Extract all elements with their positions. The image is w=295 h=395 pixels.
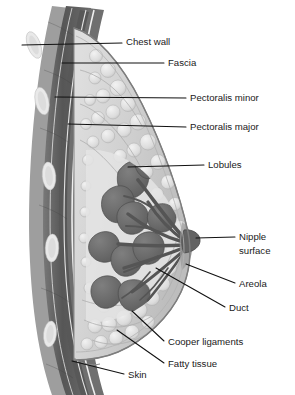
breast-anatomy-diagram: Chest wall Fascia Pectoralis minor Pecto… bbox=[0, 0, 295, 395]
leader-nipple-surface bbox=[196, 237, 235, 238]
label-fatty-tissue: Fatty tissue bbox=[168, 358, 217, 369]
label-chest-wall: Chest wall bbox=[126, 36, 170, 47]
label-nipple-surface-line1: Nipple bbox=[239, 231, 266, 242]
label-lobules: Lobules bbox=[208, 159, 242, 170]
label-duct: Duct bbox=[229, 302, 249, 313]
label-fascia: Fascia bbox=[168, 57, 197, 68]
label-nipple-surface-line2: surface bbox=[239, 245, 270, 256]
label-skin: Skin bbox=[128, 369, 147, 380]
label-cooper-ligaments: Cooper ligaments bbox=[168, 336, 243, 347]
breast-group bbox=[74, 28, 200, 365]
nipple-surface bbox=[182, 230, 200, 253]
leader-areola bbox=[186, 264, 235, 283]
label-areola: Areola bbox=[239, 278, 267, 289]
duct bbox=[118, 244, 186, 246]
diagram-canvas: Chest wall Fascia Pectoralis minor Pecto… bbox=[0, 0, 295, 395]
lobule bbox=[91, 276, 122, 308]
label-pectoralis-minor: Pectoralis minor bbox=[190, 92, 260, 103]
label-pectoralis-major: Pectoralis major bbox=[190, 121, 260, 132]
